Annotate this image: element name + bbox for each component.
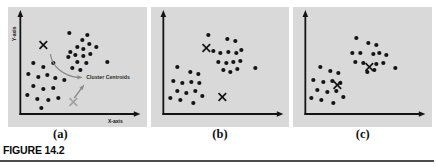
data-point <box>196 72 200 76</box>
data-point <box>31 84 35 88</box>
data-point <box>188 70 192 74</box>
curved-annotation-arrow <box>50 54 78 78</box>
data-point <box>184 91 188 95</box>
data-point <box>87 42 91 46</box>
data-point <box>46 98 50 102</box>
data-point <box>25 93 29 97</box>
data-point <box>337 71 341 75</box>
data-point <box>178 98 182 102</box>
data-point <box>310 96 314 100</box>
scatter-panel-c <box>293 7 432 127</box>
data-point <box>367 41 371 45</box>
scatter-plot <box>293 7 432 127</box>
data-point <box>329 69 333 73</box>
panel-caption-a: (a) <box>0 127 130 141</box>
data-point <box>85 33 89 37</box>
data-point <box>228 70 232 74</box>
data-point <box>105 60 109 64</box>
data-point <box>342 95 346 99</box>
data-point <box>253 66 257 70</box>
data-point <box>75 60 79 64</box>
scatter-panels-row: Y-axisX-axisCluster Centroids <box>8 7 432 127</box>
data-point <box>41 87 45 91</box>
data-point <box>332 101 336 105</box>
scatter-panel-a: Y-axisX-axisCluster Centroids <box>8 7 147 127</box>
data-point <box>193 89 197 93</box>
data-point <box>239 48 243 52</box>
data-point <box>372 52 376 56</box>
data-point <box>168 96 172 100</box>
x-axis-arrowhead <box>134 111 141 116</box>
data-point <box>171 79 175 83</box>
scatter-panel-b <box>151 7 290 127</box>
data-point <box>218 51 222 55</box>
data-point <box>206 33 210 37</box>
data-point <box>355 36 359 40</box>
panel-captions-row: (a) (b) (c) <box>8 127 432 141</box>
data-point <box>62 78 66 82</box>
y-axis-arrowhead <box>303 10 309 17</box>
data-point <box>362 61 366 65</box>
data-point <box>385 53 389 57</box>
data-point <box>197 81 201 85</box>
panel-caption-b: (b) <box>151 127 290 141</box>
data-point <box>211 49 215 53</box>
data-point <box>51 86 55 90</box>
panel-caption-c: (c) <box>293 127 432 141</box>
data-point <box>175 89 179 93</box>
data-point <box>224 61 228 65</box>
data-point <box>26 72 30 76</box>
data-point <box>70 66 74 70</box>
cluster-centroids-annotation: Cluster Centroids <box>86 74 130 80</box>
data-point <box>191 101 195 105</box>
data-point <box>394 66 398 70</box>
data-point <box>375 62 379 66</box>
data-point <box>235 67 239 71</box>
data-point <box>335 89 339 93</box>
data-point <box>36 75 40 79</box>
data-point <box>73 53 77 57</box>
data-point <box>200 94 204 98</box>
data-point <box>68 50 72 54</box>
data-point <box>233 39 237 43</box>
scatter-plot <box>151 7 290 127</box>
data-point <box>81 54 85 58</box>
data-point <box>41 65 45 69</box>
data-point <box>39 106 43 110</box>
y-axis-arrowhead <box>160 10 166 17</box>
data-point <box>238 59 242 63</box>
data-point <box>45 73 49 77</box>
data-point <box>322 80 326 84</box>
data-point <box>221 68 225 72</box>
data-point <box>31 61 35 65</box>
x-axis-label: X-axis <box>108 118 123 124</box>
data-point <box>53 76 57 80</box>
data-point <box>67 31 71 35</box>
data-point <box>312 78 316 82</box>
data-point <box>382 61 386 65</box>
data-point <box>354 60 358 64</box>
curved-arrowhead <box>77 75 83 79</box>
data-point <box>81 47 85 51</box>
y-axis-label: Y-axis <box>11 26 17 41</box>
data-point <box>316 88 320 92</box>
data-point <box>84 61 88 65</box>
data-point <box>226 50 230 54</box>
data-point <box>216 60 220 64</box>
data-point <box>88 52 92 56</box>
data-point <box>35 97 39 101</box>
data-point <box>78 68 82 72</box>
data-point <box>66 55 70 59</box>
scatter-plot: Y-axisX-axisCluster Centroids <box>8 7 147 127</box>
figure-label: FIGURE 14.2 <box>3 144 64 156</box>
data-point <box>225 37 229 41</box>
x-axis-arrowhead <box>419 111 426 116</box>
x-axis-arrowhead <box>277 111 284 116</box>
data-point <box>375 43 379 47</box>
data-point <box>326 90 330 94</box>
data-point <box>189 80 193 84</box>
data-point <box>351 51 355 55</box>
data-point <box>56 96 60 100</box>
data-point <box>359 51 363 55</box>
data-point <box>231 60 235 64</box>
